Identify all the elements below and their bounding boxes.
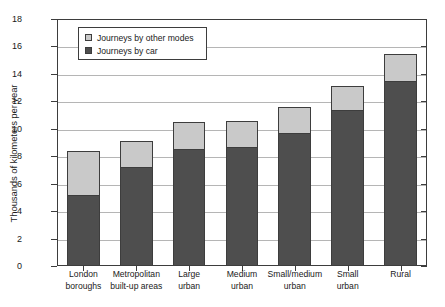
chart-legend: Journeys by other modes Journeys by car	[78, 27, 207, 60]
legend-item-car: Journeys by car	[85, 44, 206, 57]
bar-segment-other-modes[interactable]	[173, 122, 206, 149]
x-axis-label-line: Rural	[361, 269, 440, 281]
legend-label-other-modes: Journeys by other modes	[97, 33, 194, 43]
bar-stack[interactable]	[173, 122, 206, 266]
y-axis-tick-label: 6	[0, 179, 22, 189]
y-axis-tick-mark	[51, 266, 57, 267]
bar-segment-other-modes[interactable]	[331, 86, 364, 110]
bar-group[interactable]	[374, 19, 427, 266]
bar-segment-other-modes[interactable]	[278, 107, 311, 133]
bar-segment-car[interactable]	[120, 167, 153, 266]
stacked-bar-chart: Thousands of kilometers per year 0246810…	[0, 0, 445, 307]
bar-group[interactable]	[216, 19, 269, 266]
legend-label-car: Journeys by car	[97, 46, 158, 56]
bar-segment-car[interactable]	[173, 149, 206, 266]
bar-segment-car[interactable]	[384, 81, 417, 266]
bar-stack[interactable]	[226, 121, 259, 266]
legend-swatch-icon-other-modes	[85, 34, 92, 41]
bar-segment-car[interactable]	[67, 195, 100, 266]
bar-stack[interactable]	[384, 54, 417, 266]
bar-segment-car[interactable]	[226, 147, 259, 266]
bar-segment-other-modes[interactable]	[226, 121, 259, 148]
y-axis-tick-label: 8	[0, 151, 22, 161]
bar-stack[interactable]	[120, 141, 153, 266]
bar-group[interactable]	[268, 19, 321, 266]
y-axis-tick-label: 16	[0, 41, 22, 51]
x-axis-label: Rural	[361, 269, 440, 281]
bar-stack[interactable]	[331, 86, 364, 266]
bar-segment-other-modes[interactable]	[67, 151, 100, 195]
y-axis-tick-label: 0	[0, 261, 22, 271]
y-axis-tick-label: 2	[0, 234, 22, 244]
bar-stack[interactable]	[67, 151, 100, 266]
bar-segment-car[interactable]	[278, 133, 311, 266]
bar-stack[interactable]	[278, 107, 311, 266]
bar-segment-other-modes[interactable]	[384, 54, 417, 81]
y-axis-tick-label: 4	[0, 206, 22, 216]
bar-segment-other-modes[interactable]	[120, 141, 153, 167]
x-axis-labels: LondonboroughsMetropolitanbuilt-up areas…	[57, 269, 427, 303]
bar-group[interactable]	[321, 19, 374, 266]
y-axis-tick-mark-right	[421, 266, 427, 267]
legend-item-other-modes: Journeys by other modes	[85, 31, 206, 44]
y-axis-tick-label: 12	[0, 96, 22, 106]
y-axis-tick-label: 10	[0, 124, 22, 134]
legend-swatch-icon-car	[85, 47, 92, 54]
y-axis-tick-label: 18	[0, 14, 22, 24]
bar-segment-car[interactable]	[331, 110, 364, 266]
y-axis-tick-label: 14	[0, 69, 22, 79]
x-axis-label-line: urban	[308, 281, 387, 293]
